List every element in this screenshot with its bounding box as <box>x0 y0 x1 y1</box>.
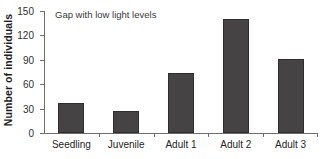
y-tick-mark: 30 <box>40 109 44 110</box>
y-axis-title: Number of individuals <box>0 0 16 140</box>
x-tick-mark <box>99 133 100 137</box>
x-tick-mark <box>208 133 209 137</box>
y-tick-mark: 90 <box>40 60 44 61</box>
x-axis-label-adult-1: Adult 1 <box>165 139 196 150</box>
y-tick-label: 60 <box>23 79 34 90</box>
chart-annotation: Gap with low light levels <box>55 9 156 20</box>
y-tick-label: 150 <box>17 6 34 17</box>
y-tick-label: 0 <box>28 128 34 139</box>
y-tick-mark: 60 <box>40 84 44 85</box>
x-axis-label-juvenile: Juvenile <box>108 139 145 150</box>
bar-juvenile <box>113 111 139 133</box>
y-tick-mark: 150 <box>40 11 44 12</box>
bar-adult-2 <box>223 19 249 133</box>
x-axis-line <box>44 133 318 134</box>
x-tick-mark <box>154 133 155 137</box>
bar-seedling <box>58 103 84 133</box>
x-tick-mark <box>263 133 264 137</box>
y-tick-label: 30 <box>23 103 34 114</box>
y-axis-title-label: Number of individuals <box>2 14 14 126</box>
y-tick-label: 120 <box>17 30 34 41</box>
x-axis-label-seedling: Seedling <box>52 139 91 150</box>
bar-adult-3 <box>278 59 304 133</box>
x-tick-mark <box>317 133 318 137</box>
plot-area: 0 30 60 90 120 150 <box>44 11 318 133</box>
y-tick-mark: 0 <box>40 133 44 134</box>
bar-chart-figure: Number of individuals 0 30 60 90 120 150 <box>0 0 323 159</box>
y-tick-label: 90 <box>23 54 34 65</box>
x-axis-label-adult-2: Adult 2 <box>220 139 251 150</box>
bar-adult-1 <box>168 73 194 133</box>
x-axis-label-adult-3: Adult 3 <box>275 139 306 150</box>
y-tick-mark: 120 <box>40 35 44 36</box>
